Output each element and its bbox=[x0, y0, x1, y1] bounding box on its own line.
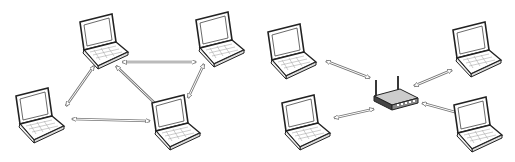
laptop-icon bbox=[268, 24, 316, 79]
laptop-icon bbox=[282, 95, 330, 150]
ad-hoc-network bbox=[16, 12, 244, 150]
laptop-icon bbox=[16, 88, 64, 143]
router-icon bbox=[374, 76, 418, 110]
laptop-icon bbox=[453, 22, 501, 77]
laptop-icon bbox=[454, 97, 502, 152]
laptop-icon bbox=[80, 14, 128, 69]
laptop-icon bbox=[196, 12, 244, 67]
laptop-icon bbox=[152, 95, 200, 150]
infrastructure-network bbox=[268, 22, 502, 152]
network-diagram bbox=[0, 0, 515, 162]
